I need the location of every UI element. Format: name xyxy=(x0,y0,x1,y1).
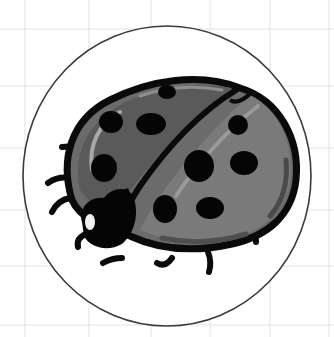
ladybug-svg xyxy=(0,0,334,337)
ladybug-eye xyxy=(85,214,95,230)
ladybug-sticker-image: ladybug illustration xyxy=(0,0,334,337)
